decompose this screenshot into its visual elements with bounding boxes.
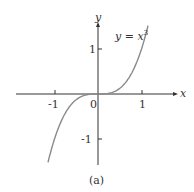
x-tick-label: 1 xyxy=(139,99,146,110)
x-axis-label: x xyxy=(180,88,186,99)
y-tick-label: -1 xyxy=(81,134,92,145)
x-tick-label: -1 xyxy=(48,99,59,110)
y-axis-label: y xyxy=(95,12,101,23)
cubic-plot xyxy=(0,0,194,192)
y-tick-label: 1 xyxy=(89,44,96,55)
curve-label: y = x3 xyxy=(115,30,148,42)
origin-label: 0 xyxy=(90,99,97,110)
caption: (a) xyxy=(89,175,104,186)
x-axis-arrow-icon xyxy=(173,92,178,96)
